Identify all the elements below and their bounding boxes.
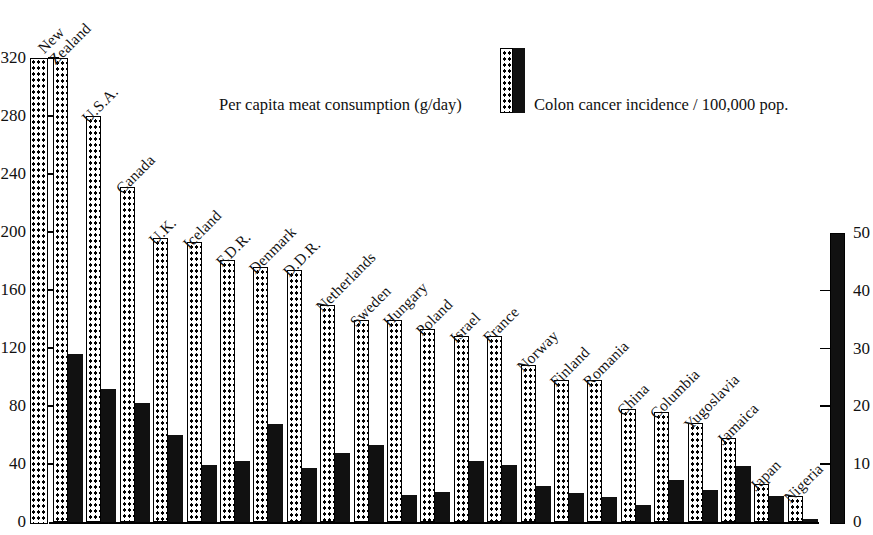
meat-consumption-bar bbox=[587, 380, 602, 522]
meat-consumption-bar bbox=[721, 438, 736, 522]
meat-consumption-bar bbox=[153, 238, 168, 522]
meat-consumption-bar bbox=[521, 365, 536, 522]
meat-consumption-bar bbox=[621, 409, 636, 522]
chart-canvas: 32028024020016012080400 50403020100 NewZ… bbox=[0, 0, 873, 535]
left-axis-tick-label: 200 bbox=[0, 223, 26, 240]
colon-cancer-bar bbox=[168, 435, 183, 522]
meat-consumption-bar bbox=[187, 242, 202, 522]
colon-cancer-bar bbox=[135, 403, 150, 522]
left-axis-tick-label: 120 bbox=[0, 339, 26, 356]
x-axis-baseline bbox=[49, 522, 819, 524]
legend-swatch bbox=[500, 48, 525, 113]
colon-cancer-bar bbox=[235, 461, 250, 522]
colon-cancer-bar bbox=[803, 519, 818, 522]
right-axis-tick-label: 40 bbox=[853, 282, 873, 299]
colon-cancer-bar bbox=[602, 497, 617, 522]
right-axis-tick bbox=[820, 405, 830, 407]
colon-cancer-bar bbox=[402, 495, 417, 522]
meat-consumption-bar bbox=[454, 336, 469, 522]
country-label: U.K. bbox=[146, 214, 179, 247]
meat-consumption-bar bbox=[420, 329, 435, 522]
colon-cancer-bar bbox=[469, 461, 484, 522]
left-axis-tick-label: 80 bbox=[0, 397, 26, 414]
solid-bar-icon bbox=[513, 48, 526, 113]
meat-consumption-bar bbox=[253, 267, 268, 522]
colon-cancer-bar bbox=[669, 480, 684, 522]
legend-label-meat: Per capita meat consumption (g/day) bbox=[219, 96, 462, 113]
meat-consumption-bar bbox=[287, 270, 302, 522]
colon-cancer-bar bbox=[536, 486, 551, 522]
colon-cancer-bar bbox=[68, 354, 83, 522]
colon-cancer-bar bbox=[101, 389, 116, 522]
colon-cancer-bar bbox=[435, 492, 450, 522]
meat-consumption-bar bbox=[120, 187, 135, 522]
colon-cancer-bar bbox=[369, 445, 384, 522]
colon-cancer-bar bbox=[569, 493, 584, 522]
meat-consumption-bar bbox=[487, 336, 502, 522]
colon-cancer-bar bbox=[703, 490, 718, 522]
left-axis-tick-label: 160 bbox=[0, 281, 26, 298]
colon-cancer-bar bbox=[335, 453, 350, 522]
colon-cancer-bar bbox=[736, 466, 751, 522]
right-axis-tick-label: 20 bbox=[853, 397, 873, 414]
country-label: Romania bbox=[580, 338, 632, 390]
country-label: Canada bbox=[113, 152, 158, 197]
meat-consumption-bar bbox=[354, 320, 369, 522]
left-axis-tick-label: 0 bbox=[0, 513, 26, 530]
right-axis-tick-label: 50 bbox=[853, 224, 873, 241]
right-axis-tick bbox=[820, 290, 830, 292]
right-axis-tick bbox=[820, 348, 830, 350]
meat-consumption-bar bbox=[220, 260, 235, 522]
right-axis-tick bbox=[820, 463, 830, 465]
country-label: Iceland bbox=[180, 207, 224, 251]
right-axis-tick-label: 10 bbox=[853, 455, 873, 472]
country-label: Nigeria bbox=[781, 461, 826, 506]
meat-consumption-bar bbox=[554, 380, 569, 522]
right-axis-tick-label: 30 bbox=[853, 340, 873, 357]
meat-consumption-bar bbox=[86, 116, 101, 522]
country-label: Jamaica bbox=[714, 400, 761, 447]
left-axis-bar bbox=[30, 58, 48, 524]
country-label: Norway bbox=[514, 328, 561, 375]
legend-label-cancer: Colon cancer incidence / 100,000 pop. bbox=[534, 96, 788, 113]
dotted-bar-icon bbox=[500, 48, 513, 113]
meat-consumption-bar bbox=[53, 58, 68, 522]
meat-consumption-bar bbox=[387, 320, 402, 522]
chart-legend: Per capita meat consumption (g/day) Colo… bbox=[0, 0, 873, 120]
meat-consumption-bar bbox=[654, 412, 669, 522]
colon-cancer-bar bbox=[302, 468, 317, 522]
right-axis-bar bbox=[830, 233, 845, 524]
left-axis-tick-label: 240 bbox=[0, 165, 26, 182]
meat-consumption-bar bbox=[688, 423, 703, 522]
colon-cancer-bar bbox=[636, 505, 651, 522]
colon-cancer-bar bbox=[202, 465, 217, 522]
colon-cancer-bar bbox=[502, 465, 517, 522]
meat-consumption-bar bbox=[320, 305, 335, 523]
colon-cancer-bar bbox=[268, 424, 283, 522]
colon-cancer-bar bbox=[769, 496, 784, 522]
right-axis-tick-label: 0 bbox=[853, 513, 873, 530]
left-axis-tick-label: 40 bbox=[0, 455, 26, 472]
